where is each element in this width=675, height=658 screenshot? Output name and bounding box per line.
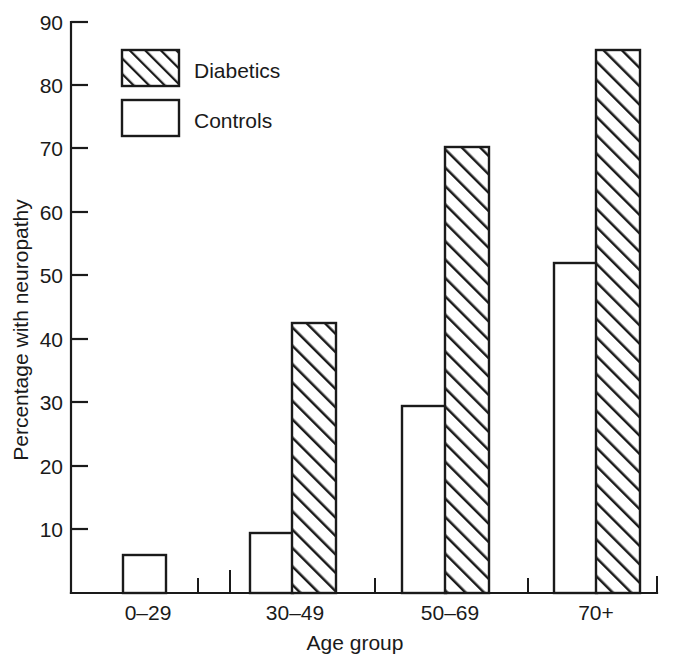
y-tick-label-30: 30 [40, 391, 63, 414]
bar-chart-figure: 90 80 70 60 50 40 30 20 10 Percentage wi… [0, 0, 675, 658]
y-tick-label-40: 40 [40, 328, 63, 351]
hatched-swatch-icon [122, 50, 179, 86]
y-tick-label-90: 90 [40, 11, 63, 34]
y-tick-label-60: 60 [40, 201, 63, 224]
legend-label-diabetics: Diabetics [194, 59, 280, 82]
y-tick-label-50: 50 [40, 264, 63, 287]
y-tick-label-70: 70 [40, 137, 63, 160]
bars-group-30-49 [250, 323, 336, 593]
x-tick-label-70plus: 70+ [578, 601, 614, 624]
y-tick-label-80: 80 [40, 74, 63, 97]
chart-canvas: 90 80 70 60 50 40 30 20 10 Percentage wi… [0, 0, 675, 658]
x-tick-label-0-29: 0–29 [125, 601, 172, 624]
bar-controls-70plus[interactable] [554, 263, 597, 593]
x-tick-label-30-49: 30–49 [266, 601, 324, 624]
bars-group-0-29 [123, 555, 166, 593]
open-swatch-icon [122, 100, 179, 136]
y-tick-label-20: 20 [40, 455, 63, 478]
y-axis-title: Percentage with neuropathy [9, 199, 32, 461]
y-axis: 90 80 70 60 50 40 30 20 10 Percentage wi… [9, 11, 88, 593]
legend-entry-controls[interactable]: Controls [122, 100, 272, 136]
x-tick-label-50-69: 50–69 [421, 601, 479, 624]
bar-controls-30-49[interactable] [250, 533, 293, 593]
y-tick-label-10: 10 [40, 518, 63, 541]
legend-entry-diabetics[interactable]: Diabetics [122, 50, 280, 86]
bar-diabetics-30-49[interactable] [292, 323, 336, 593]
bar-diabetics-70plus[interactable] [596, 50, 640, 593]
bars-group-70plus [554, 50, 640, 593]
bar-diabetics-50-69[interactable] [445, 147, 489, 593]
x-axis-title: Age group [307, 631, 404, 654]
bar-controls-50-69[interactable] [402, 406, 446, 593]
bars-group-50-69 [402, 147, 489, 593]
bar-controls-0-29[interactable] [123, 555, 166, 593]
legend: Diabetics Controls [122, 50, 280, 136]
legend-label-controls: Controls [194, 109, 272, 132]
